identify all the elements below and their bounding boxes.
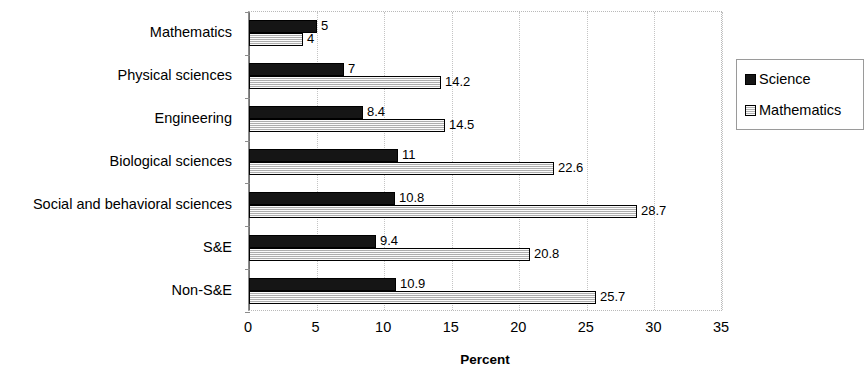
bar-value-label: 14.2 (445, 75, 470, 88)
category-axis-labels: MathematicsPhysical sciencesEngineeringB… (0, 11, 240, 311)
x-tick-label: 15 (443, 320, 459, 335)
x-tick-label: 20 (510, 320, 526, 335)
gridline (587, 12, 588, 310)
category-label: Social and behavioral sciences (33, 197, 232, 212)
category-label: Physical sciences (118, 68, 232, 83)
x-axis-title: Percent (248, 352, 722, 367)
bar-value-label: 10.8 (399, 191, 424, 204)
bar-value-label: 9.4 (380, 234, 398, 247)
category-label: Non-S&E (172, 283, 232, 298)
bar-value-label: 8.4 (367, 105, 385, 118)
category-tick (245, 55, 250, 56)
x-tick-label: 5 (312, 320, 320, 335)
bar-science (249, 149, 398, 162)
legend-item[interactable]: Science (745, 69, 857, 89)
category-tick (245, 183, 250, 184)
bar-mathematics (249, 205, 637, 218)
bar-value-label: 4 (307, 32, 314, 45)
gridline (722, 12, 723, 310)
category-tick (245, 226, 250, 227)
bar-science (249, 192, 395, 205)
gridline (452, 12, 453, 310)
category-label: Engineering (155, 111, 232, 126)
bar-science (249, 278, 396, 291)
bar-value-label: 11 (402, 148, 416, 161)
bar-value-label: 22.6 (558, 161, 583, 174)
legend-swatch-icon (745, 105, 756, 116)
bar-value-label: 28.7 (641, 204, 666, 217)
bar-mathematics (249, 291, 596, 304)
x-tick-label: 25 (578, 320, 594, 335)
gridline (654, 12, 655, 310)
category-tick (245, 12, 250, 13)
bar-science (249, 63, 344, 76)
bar-value-label: 10.9 (400, 277, 425, 290)
bar-value-label: 7 (348, 62, 355, 75)
category-tick (245, 98, 250, 99)
category-tick (245, 269, 250, 270)
bar-value-label: 14.5 (449, 118, 474, 131)
bar-value-label: 25.7 (600, 290, 625, 303)
category-label: Mathematics (150, 25, 232, 40)
category-tick (245, 141, 250, 142)
legend-item[interactable]: Mathematics (745, 100, 857, 120)
legend-item-label: Mathematics (759, 103, 841, 118)
bar-mathematics (249, 162, 554, 175)
chart-figure: MathematicsPhysical sciencesEngineeringB… (0, 0, 868, 381)
bar-science (249, 106, 363, 119)
legend-item-label: Science (759, 72, 811, 87)
chart-legend: ScienceMathematics (736, 59, 864, 130)
bar-mathematics (249, 33, 303, 46)
legend-swatch-icon (745, 74, 756, 85)
category-label: Biological sciences (109, 154, 232, 169)
bar-value-label: 20.8 (534, 247, 559, 260)
x-tick-label: 10 (375, 320, 391, 335)
bar-mathematics (249, 76, 441, 89)
bar-science (249, 235, 376, 248)
gridline (519, 12, 520, 310)
x-tick-label: 30 (645, 320, 661, 335)
bar-mathematics (249, 248, 530, 261)
plot-area: 54714.28.414.51122.610.828.79.420.810.92… (248, 11, 722, 311)
value-axis-ticks: 05101520253035 (248, 311, 722, 341)
category-label: S&E (203, 240, 232, 255)
x-tick-label: 35 (713, 320, 729, 335)
bar-mathematics (249, 119, 445, 132)
bar-value-label: 5 (321, 19, 328, 32)
x-tick-label: 0 (244, 320, 252, 335)
